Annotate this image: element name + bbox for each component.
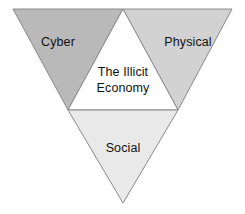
illicit-economy-diagram: Cyber Physical The IllicitEconomy Social — [0, 0, 245, 214]
triangle-social — [68, 110, 178, 203]
triangle-diagram-graphic — [0, 0, 245, 214]
